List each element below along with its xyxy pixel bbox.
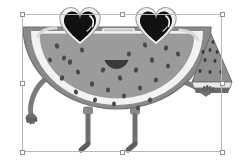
right-leg — [128, 107, 140, 150]
handle-bottom-left[interactable] — [20, 150, 25, 155]
handle-bottom-center[interactable] — [120, 150, 125, 155]
handle-top-left[interactable] — [20, 12, 25, 17]
handle-top-right[interactable] — [220, 12, 225, 17]
right-foot — [128, 144, 135, 150]
left-hand — [26, 114, 38, 125]
handle-middle-left[interactable] — [20, 81, 25, 86]
left-leg — [81, 107, 93, 150]
handle-top-center[interactable] — [120, 12, 125, 17]
handle-bottom-right[interactable] — [220, 150, 225, 155]
left-foot — [81, 144, 88, 150]
watermelon-character-artwork[interactable] — [0, 0, 242, 165]
handle-middle-right[interactable] — [220, 81, 225, 86]
image-canvas — [0, 0, 242, 165]
